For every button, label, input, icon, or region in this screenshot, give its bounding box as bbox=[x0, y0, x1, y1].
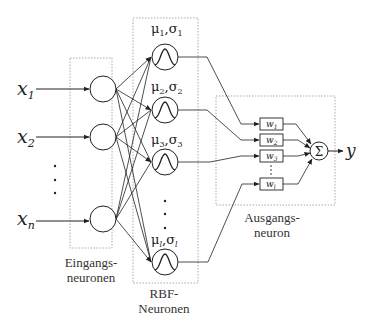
input-neuron-2 bbox=[90, 124, 116, 150]
input-ellipsis-dots bbox=[54, 165, 56, 194]
rbf-layer-caption-line1: RBF- bbox=[150, 286, 179, 301]
input-label-x1: x1 bbox=[17, 77, 35, 102]
input-label-x2: x2 bbox=[17, 125, 35, 150]
rbf-label-1: μ1,σ1 bbox=[151, 21, 183, 38]
rbf-neuron-1 bbox=[152, 44, 178, 70]
input-neuron-n bbox=[90, 206, 116, 232]
rbf-label-2: μ2,σ2 bbox=[151, 79, 183, 96]
rbf-layer-caption-line2: Neuronen bbox=[138, 301, 190, 316]
rbf-ellipsis-dots bbox=[164, 200, 166, 229]
input-layer-caption-line2: neuronen bbox=[67, 270, 116, 285]
rbf-to-weight-connections bbox=[178, 57, 259, 262]
sum-icon: Σ bbox=[315, 145, 323, 159]
rbf-neuron-l bbox=[152, 249, 178, 275]
input-neuron-1 bbox=[90, 76, 116, 102]
rbf-label-3: μ3,σ3 bbox=[151, 132, 183, 149]
rbf-neuron-2 bbox=[152, 97, 178, 123]
weight-ellipsis-dots bbox=[270, 165, 272, 175]
rbf-label-l: μl,σl bbox=[151, 232, 178, 249]
output-layer-caption-line2: neuron bbox=[254, 225, 291, 240]
output-layer-caption-line1: Ausgangs- bbox=[244, 210, 300, 225]
input-layer-caption-line1: Eingangs- bbox=[65, 255, 118, 270]
input-label-xn: xn bbox=[17, 207, 35, 232]
input-to-rbf-connections bbox=[116, 57, 151, 262]
weight-to-sum-connections bbox=[283, 124, 312, 184]
rbf-neuron-3 bbox=[152, 149, 178, 175]
output-label-y: y bbox=[345, 140, 356, 160]
rbf-network-diagram: x1 x2 xn μ1,σ1 μ2,σ2 μ3,σ3 μl,σl bbox=[0, 0, 368, 325]
